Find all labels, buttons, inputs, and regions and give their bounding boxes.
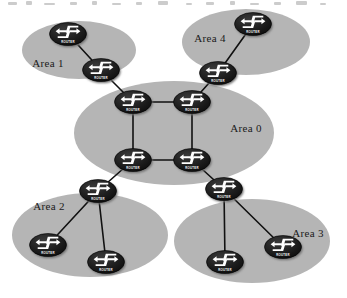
area-label-area-4: Area 4: [194, 32, 226, 44]
router-caption: ROUTER: [61, 40, 75, 44]
area-label-area-3: Area 3: [292, 227, 324, 239]
router-caption: ROUTER: [246, 30, 260, 34]
topology-canvas: ROUTERROUTERROUTERROUTERROUTERROUTERROUT…: [0, 0, 347, 298]
router-caption: ROUTER: [41, 251, 55, 255]
router-caption: ROUTER: [94, 76, 108, 80]
area-label-area-0: Area 0: [230, 122, 262, 134]
router-caption: ROUTER: [185, 166, 199, 170]
router-caption: ROUTER: [276, 253, 290, 257]
area-label-area-1: Area 1: [32, 57, 63, 69]
router-caption: ROUTER: [99, 268, 113, 272]
area-ellipse-area-3: [174, 199, 330, 283]
router-icon[interactable]: ROUTER: [206, 178, 244, 203]
router-icon[interactable]: ROUTER: [83, 59, 121, 84]
area-label-area-2: Area 2: [33, 200, 64, 212]
router-caption: ROUTER: [126, 166, 140, 170]
router-caption: ROUTER: [211, 79, 225, 83]
network-topology-diagram: ROUTERROUTERROUTERROUTERROUTERROUTERROUT…: [0, 0, 347, 298]
router-caption: ROUTER: [126, 108, 140, 112]
router-caption: ROUTER: [185, 108, 199, 112]
router-icon[interactable]: ROUTER: [200, 62, 238, 87]
router-caption: ROUTER: [91, 197, 105, 201]
router-caption: ROUTER: [217, 195, 231, 199]
scan-artifact-strip: [0, 0, 347, 9]
router-caption: ROUTER: [218, 268, 232, 272]
